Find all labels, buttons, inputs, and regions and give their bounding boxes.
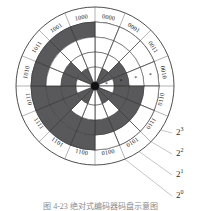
legend-label-2-2: 22: [176, 148, 184, 158]
legend-exp-2-3: 3: [181, 126, 184, 132]
legend-exp-2-2: 2: [181, 147, 184, 153]
encoder-disc-svg: ****000000010011001001100111010101001100…: [0, 0, 201, 211]
disc-marker-asterisk: *: [105, 81, 108, 87]
legend-label-2-3: 23: [176, 127, 184, 137]
legend-label-2-0: 20: [176, 190, 184, 200]
legend-exp-2-1: 1: [181, 168, 184, 174]
legend-exp-2-0: 0: [181, 189, 184, 195]
legend-label-2-1: 21: [176, 169, 184, 179]
disc-marker-asterisk: *: [134, 75, 137, 81]
disc-marker-asterisk: *: [120, 78, 123, 84]
figure-container: ****000000010011001001100111010101001100…: [0, 0, 201, 211]
disc-marker-asterisk: *: [149, 72, 152, 78]
disc-hub: [91, 82, 99, 90]
figure-caption: 图 4-23 绝对式编码器码盘示意图: [0, 201, 201, 211]
